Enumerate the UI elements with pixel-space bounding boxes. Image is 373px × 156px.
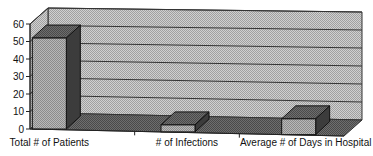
x-category-label: Average # of Days in Hospital	[240, 137, 372, 148]
bar-front	[282, 119, 316, 135]
bar-0	[32, 25, 80, 129]
bar-front	[161, 125, 195, 132]
y-axis: 0102030405060	[13, 19, 30, 135]
y-tick-label: 50	[13, 36, 25, 47]
bar-chart-3d: 0102030405060 Total # of Patients# of In…	[0, 0, 373, 156]
y-tick-label: 10	[13, 106, 25, 117]
back-wall	[48, 8, 362, 120]
y-tick-label: 40	[13, 54, 25, 65]
bar-side	[66, 25, 80, 129]
y-tick-label: 60	[13, 19, 25, 30]
x-category-label: # of Infections	[156, 137, 218, 148]
y-tick-label: 0	[18, 124, 24, 135]
y-tick-label: 30	[13, 71, 25, 82]
y-tick-label: 20	[13, 89, 25, 100]
bar-front	[32, 38, 66, 129]
x-category-label: Total # of Patients	[10, 137, 90, 148]
